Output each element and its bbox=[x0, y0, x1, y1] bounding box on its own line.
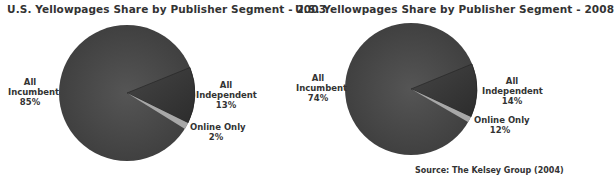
label-line: Independent bbox=[482, 86, 542, 96]
pie-2008 bbox=[345, 23, 477, 155]
label-percent: 2% bbox=[190, 132, 242, 142]
label-incumbent-2008: All Incumbent 74% bbox=[296, 73, 340, 103]
label-line: Incumbent bbox=[296, 83, 340, 93]
label-line: Incumbent bbox=[8, 87, 52, 97]
label-online-2003: Online Only 2% bbox=[190, 122, 242, 142]
label-online-2008: Online Only 12% bbox=[474, 115, 526, 135]
label-independent-2003: All Independent 13% bbox=[196, 80, 256, 110]
label-line: All bbox=[196, 80, 256, 90]
label-percent: 14% bbox=[482, 96, 542, 106]
pie-2003 bbox=[59, 25, 195, 161]
chart-title-2008: U.S. Yellowpages Share by Publisher Segm… bbox=[295, 3, 614, 15]
label-line: Online Only bbox=[190, 122, 242, 132]
label-percent: 85% bbox=[8, 97, 52, 107]
label-incumbent-2003: All Incumbent 85% bbox=[8, 77, 52, 107]
label-line: Online Only bbox=[474, 115, 526, 125]
label-line: All bbox=[482, 76, 542, 86]
chart-title-2003: U.S. Yellowpages Share by Publisher Segm… bbox=[7, 3, 326, 15]
label-line: All bbox=[8, 77, 52, 87]
label-line: All bbox=[296, 73, 340, 83]
label-percent: 13% bbox=[196, 100, 256, 110]
source-note: Source: The Kelsey Group (2004) bbox=[415, 166, 564, 175]
label-line: Independent bbox=[196, 90, 256, 100]
label-percent: 12% bbox=[474, 125, 526, 135]
label-percent: 74% bbox=[296, 93, 340, 103]
label-independent-2008: All Independent 14% bbox=[482, 76, 542, 106]
